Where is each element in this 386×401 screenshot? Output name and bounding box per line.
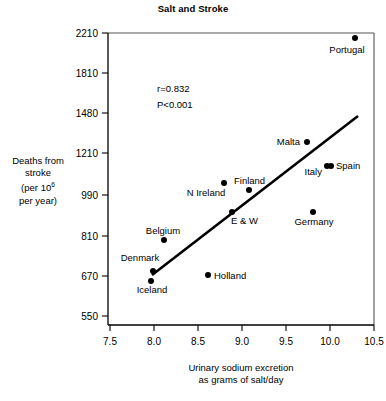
y-tick-label: 670 [81,271,98,282]
data-point-label-belgium: Belgium [146,225,180,236]
data-point[interactable] [205,272,211,278]
y-axis-title-exponent: 6 [51,181,55,188]
data-point[interactable] [221,180,227,186]
regression-line [152,116,358,275]
x-axis-title: Urinary sodium excretion as grams of sal… [107,362,375,387]
data-point[interactable] [150,268,156,274]
x-tick-label: 10.5 [364,336,384,347]
x-tick-label: 8.5 [191,336,205,347]
data-point[interactable] [161,237,167,243]
data-point-label-holland: Holland [214,270,246,281]
data-point-label-ew: E & W [231,215,258,226]
x-tick-label: 9.5 [279,336,293,347]
data-point-label-italy: Italy [305,166,323,177]
y-tick-label: 990 [81,190,98,201]
y-tick-label: 2210 [76,28,99,39]
data-point-label-nireland: N Ireland [187,187,226,198]
data-point-label-portugal: Portugal [329,44,364,55]
data-point-labels: Portugal Malta Spain Italy Finland N Ire… [121,44,365,295]
y-axis-title: Deaths from stroke (per 106 per year) [2,155,74,207]
y-axis-title-line3: (per 106 [2,179,74,194]
data-point[interactable] [246,187,252,193]
x-tick-label: 9.0 [235,336,249,347]
y-axis-title-line1: Deaths from [2,155,74,167]
y-tick-label: 1810 [76,68,99,79]
x-tick-label: 10.0 [320,336,340,347]
data-point[interactable] [352,35,358,41]
x-tick-label: 7.5 [103,336,117,347]
data-point-label-denmark: Denmark [121,252,160,263]
y-axis-ticks [102,33,108,316]
data-points [148,35,358,284]
y-tick-label: 1210 [76,148,99,159]
pvalue-annotation: P<0.001 [157,99,193,110]
x-axis-title-line1: Urinary sodium excretion [107,362,375,374]
x-axis-title-line2: as grams of salt/day [107,374,375,386]
data-point[interactable] [324,163,330,169]
data-point[interactable] [304,139,310,145]
y-tick-label: 550 [81,311,98,322]
correlation-annotation: r=0.832 [157,83,190,94]
y-tick-label: 1480 [76,108,99,119]
chart-figure: Salt and Stroke 2210 1810 1480 1210 990 … [0,0,386,401]
y-tick-label: 810 [81,231,98,242]
data-point-label-germany: Germany [294,216,333,227]
data-point-label-finland: Finland [234,175,265,186]
y-axis-title-line4: per year) [2,195,74,207]
data-point-label-spain: Spain [336,160,360,171]
x-axis-ticks [110,325,374,331]
data-point-label-iceland: Iceland [137,284,168,295]
y-axis-tick-labels: 2210 1810 1480 1210 990 810 670 550 [76,28,99,322]
x-tick-label: 8.0 [147,336,161,347]
data-point-label-malta: Malta [277,136,301,147]
x-axis-tick-labels: 7.5 8.0 8.5 9.0 9.5 10.0 10.5 [103,336,384,347]
y-axis-title-line2: stroke [2,167,74,179]
y-axis-title-line3-text: (per 10 [21,183,51,194]
data-point[interactable] [310,209,316,215]
